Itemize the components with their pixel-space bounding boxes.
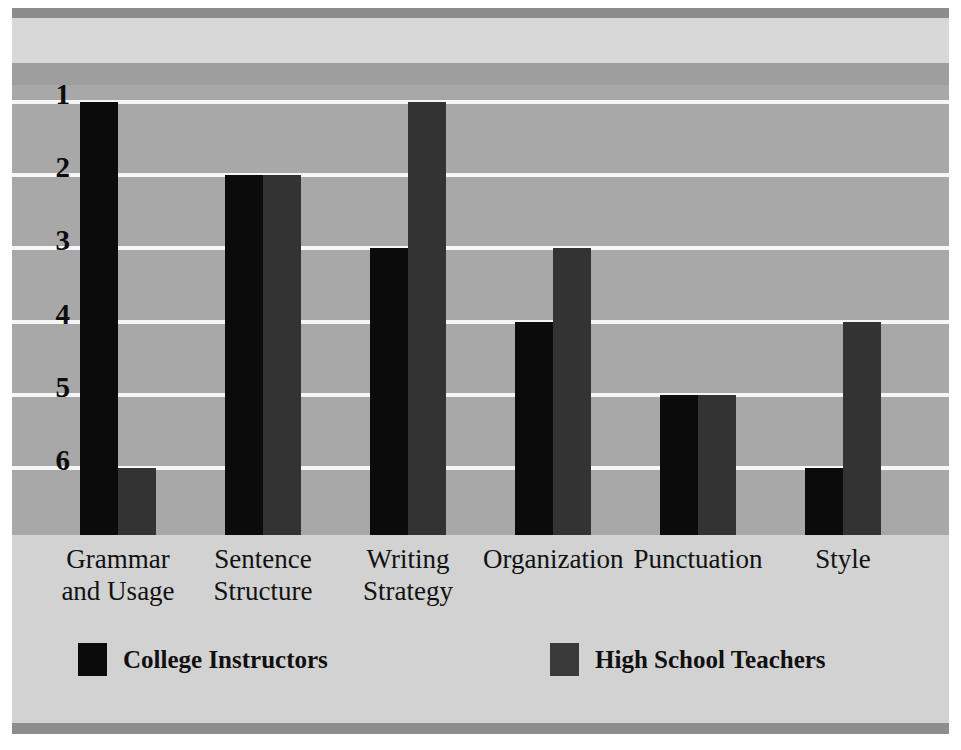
bar (225, 175, 263, 535)
x-axis-category-label: Organization (483, 543, 623, 575)
chart-legend: College Instructors High School Teachers (12, 625, 949, 723)
y-axis-tick-label: 6 (34, 446, 70, 475)
y-axis-tick-label: 2 (34, 153, 70, 182)
bar (805, 468, 843, 535)
legend-swatch-icon (550, 643, 579, 676)
decorative-light-band (12, 18, 949, 63)
y-axis-tick-label: 1 (34, 80, 70, 109)
gridline (12, 320, 949, 324)
bar (660, 395, 698, 535)
decorative-mid-band (12, 63, 949, 85)
bar (408, 102, 446, 535)
bar (370, 248, 408, 535)
gridline (12, 246, 949, 250)
bar (118, 468, 156, 535)
x-axis-category-label: Grammarand Usage (48, 543, 188, 607)
x-axis-category-label: WritingStrategy (338, 543, 478, 607)
bar (553, 248, 591, 535)
decorative-top-rule (12, 8, 949, 18)
bar (515, 322, 553, 535)
bar (80, 102, 118, 535)
legend-swatch-icon (78, 643, 107, 676)
chart-figure: 123456 Grammarand UsageSentenceStructure… (0, 0, 961, 750)
legend-item-label: High School Teachers (595, 646, 826, 674)
decorative-bottom-rule (12, 723, 949, 734)
x-axis-label-strip: Grammarand UsageSentenceStructureWriting… (12, 535, 949, 625)
legend-item-high-school-teachers: High School Teachers (550, 643, 826, 676)
gridline (12, 173, 949, 177)
plot-inner: 123456 (12, 85, 949, 535)
legend-item-label: College Instructors (123, 646, 328, 674)
x-axis-category-label: SentenceStructure (193, 543, 333, 607)
plot-area: 123456 (12, 85, 949, 535)
x-axis-category-label: Style (773, 543, 913, 575)
bar (263, 175, 301, 535)
gridline (12, 393, 949, 397)
y-axis-tick-label: 5 (34, 373, 70, 402)
y-axis-tick-label: 4 (34, 300, 70, 329)
x-axis-category-label: Punctuation (628, 543, 768, 575)
bar (698, 395, 736, 535)
legend-item-college-instructors: College Instructors (78, 643, 328, 676)
gridline (12, 100, 949, 104)
y-axis-tick-label: 3 (34, 226, 70, 255)
bar (843, 322, 881, 535)
